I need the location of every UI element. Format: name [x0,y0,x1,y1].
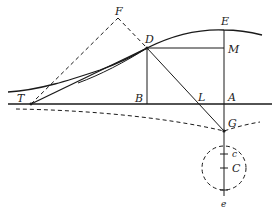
normal-line-DG [147,48,224,131]
point-T [30,103,33,106]
label-e: e [221,199,226,209]
dashed-line-TF [31,18,118,104]
label-M: M [227,43,240,56]
tangent-line-TD [31,48,147,104]
label-B: B [134,92,143,105]
lower-dashed-curve [16,109,260,131]
label-D: D [144,33,154,46]
label-F: F [114,5,123,18]
label-L: L [197,91,205,104]
label-T: T [17,92,26,105]
label-A: A [227,91,236,104]
geometric-diagram: F D E M T B L A G c C e [0,0,278,216]
label-c: c [232,149,237,159]
label-E: E [220,15,229,28]
label-C: C [232,162,241,175]
label-G: G [228,117,237,130]
point-G [222,129,225,132]
dashed-line-FD [118,18,147,48]
point-D [145,46,148,49]
